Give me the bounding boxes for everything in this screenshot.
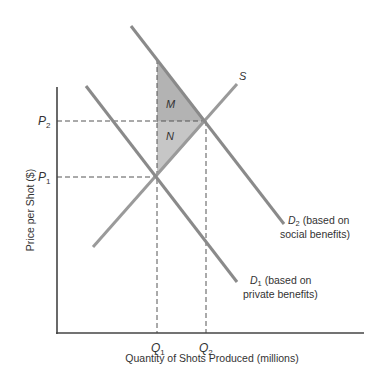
demand-curve-d2 [131,26,284,224]
tick-p1: P1 [38,170,51,186]
label-d2: D2 (based on [288,214,350,228]
label-d2-line2: social benefits) [280,228,350,240]
label-d1-line2: private benefits) [243,288,318,300]
tick-p2: P2 [38,114,51,130]
x-axis-title: Quantity of Shots Produced (millions) [125,352,298,364]
label-s: S [239,70,247,82]
label-d1: D1 (based on [250,274,312,288]
label-m: M [166,98,176,110]
y-axis-title: Price per Shot ($) [24,169,36,251]
label-n: N [166,130,174,142]
economics-diagram: M N S P2 P1 Q1 Q2 D2 (based on social be… [0,0,383,376]
